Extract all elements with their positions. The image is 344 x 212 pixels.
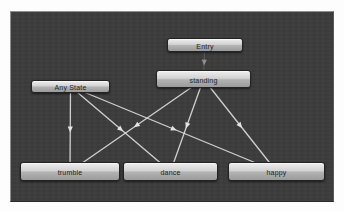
state-node-dance[interactable]: dance: [123, 162, 218, 181]
state-node-label: trumble: [58, 169, 83, 176]
state-node-any-state[interactable]: Any State: [31, 80, 110, 93]
state-node-entry[interactable]: Entry: [167, 38, 243, 52]
state-node-label: dance: [160, 169, 180, 176]
animator-graph-view: EntrystandingAny Statetrumbledancehappy: [0, 0, 344, 212]
state-node-standing[interactable]: standing: [156, 70, 251, 88]
state-node-trumble[interactable]: trumble: [20, 162, 120, 181]
state-node-label: Any State: [54, 84, 86, 91]
state-node-label: Entry: [196, 42, 213, 49]
state-node-label: happy: [266, 169, 286, 176]
state-node-happy[interactable]: happy: [228, 162, 325, 181]
state-node-label: standing: [189, 76, 217, 83]
